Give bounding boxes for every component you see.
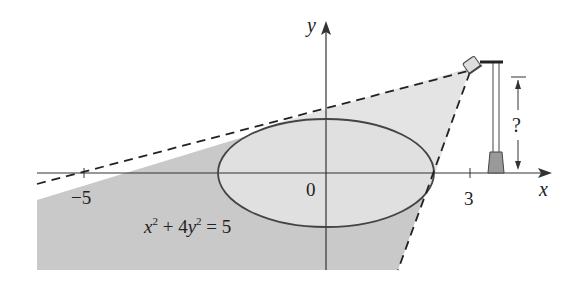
y-axis-label: y xyxy=(305,14,316,37)
lamp-post xyxy=(480,62,504,173)
ellipse-lamp-figure: y x 0 −5 3 ? x2 + 4y2 = 5 xyxy=(0,0,583,287)
origin-label: 0 xyxy=(306,179,316,200)
tick-label-neg5: −5 xyxy=(71,187,91,208)
height-unknown-label: ? xyxy=(512,114,521,136)
tick-label-3: 3 xyxy=(464,188,474,209)
lamp-post-base xyxy=(488,152,504,173)
x-axis-label: x xyxy=(538,178,548,200)
